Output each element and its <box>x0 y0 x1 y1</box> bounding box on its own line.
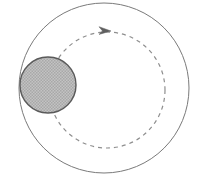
orbit-diagram-svg: Circular orbit diagram <box>0 0 197 179</box>
figure-root: Circular orbit diagram <box>0 0 197 179</box>
shaded-body-circle <box>20 57 76 113</box>
